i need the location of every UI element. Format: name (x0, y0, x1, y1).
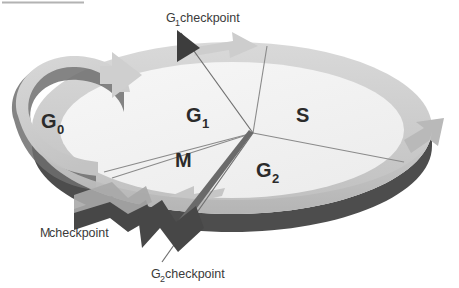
phase-sub-g0: 0 (57, 122, 64, 137)
phase-label-g0: G (41, 110, 57, 132)
phase-label-m: M (175, 149, 192, 171)
phase-sub-g1: 1 (202, 116, 209, 131)
phase-sub-g2: 2 (272, 171, 279, 186)
top-rule (2, 2, 84, 4)
checkpoint-suffix-g2: checkpoint (165, 267, 225, 281)
checkpoint-suffix-m: checkpoint (49, 226, 109, 240)
cell-cycle-figure: G 0 G 1 S G 2 M G 1 checkpoint M checkpo… (0, 0, 459, 288)
checkpoint-suffix-g1: checkpoint (180, 11, 240, 25)
phase-label-s: S (296, 104, 310, 126)
phase-label-g1: G (186, 104, 202, 126)
phase-label-g2: G (256, 159, 272, 181)
